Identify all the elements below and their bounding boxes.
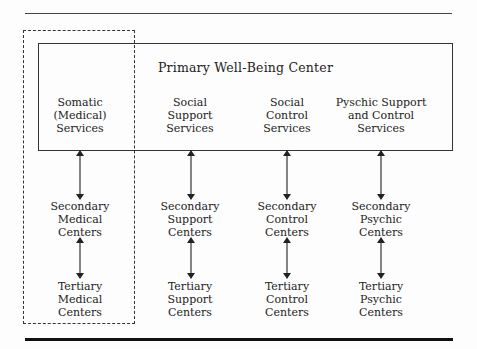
connector-arrows — [0, 0, 477, 349]
bottom-rule — [25, 338, 453, 341]
